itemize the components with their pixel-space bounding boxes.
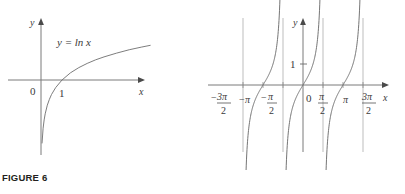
x-axis-label: x <box>138 86 144 97</box>
svg-text:π: π <box>343 94 349 105</box>
y-axis-arrowhead-icon <box>38 18 44 25</box>
x-tick-label-neg-pi: − π <box>239 94 251 105</box>
tick-label-one: 1 <box>59 87 65 99</box>
svg-text:3π: 3π <box>216 91 228 102</box>
x-axis-arrowhead-icon <box>382 82 389 88</box>
figure-7-graph: y x 1 0 − 3π 2 − π − π 2 π <box>202 0 405 170</box>
x-tick-label-zero: 0 <box>306 92 312 104</box>
svg-text:2: 2 <box>320 105 325 116</box>
svg-text:π: π <box>245 94 251 105</box>
svg-text:2: 2 <box>269 105 274 116</box>
figure-6-panel: y x 0 1 y = ln x FIGURE 6 <box>0 0 202 194</box>
curve-equation-label: y = ln x <box>56 36 91 48</box>
x-axis-arrowhead-icon <box>138 77 145 83</box>
tick-label-zero: 0 <box>30 85 36 97</box>
y-axis-label: y <box>292 17 298 28</box>
y-axis-label: y <box>29 17 35 28</box>
svg-text:π: π <box>319 91 325 102</box>
figure-7-panel: y x 1 0 − 3π 2 − π − π 2 π <box>202 0 405 194</box>
x-tick-label-neg-pi-over-2: − π 2 <box>261 91 277 116</box>
figure-page: y x 0 1 y = ln x FIGURE 6 <box>0 0 405 194</box>
figure-6-caption: FIGURE 6 <box>2 172 47 183</box>
x-tick-label-pi: π <box>343 94 349 105</box>
figure-6-graph: y x 0 1 y = ln x <box>0 0 202 170</box>
svg-text:2: 2 <box>366 105 371 116</box>
x-axis-label: x <box>382 92 388 103</box>
svg-text:2: 2 <box>221 105 226 116</box>
x-tick-label-neg-3pi-over-2: − 3π 2 <box>211 91 231 116</box>
svg-text:π: π <box>268 91 274 102</box>
svg-text:−: − <box>261 92 267 103</box>
y-axis-arrowhead-icon <box>300 18 306 25</box>
y-tick-label-one: 1 <box>290 58 296 70</box>
svg-text:3π: 3π <box>361 91 373 102</box>
